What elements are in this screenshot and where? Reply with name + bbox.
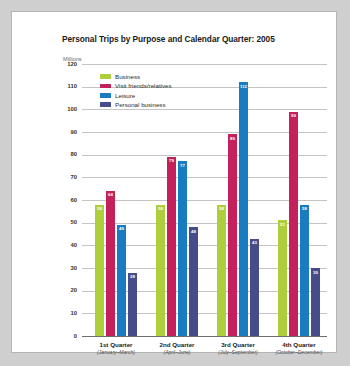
x-axis-category-label: 4th Quarter [262, 341, 336, 349]
y-axis-tick-label: 30 [51, 265, 77, 271]
bar-value-label: 99 [289, 113, 298, 118]
y-axis-tick-label: 110 [51, 83, 77, 89]
bar-value-label: 89 [228, 136, 237, 141]
y-axis-tick-label: 20 [51, 287, 77, 293]
bar: 79 [167, 157, 176, 336]
bar-group: 51995830 [278, 64, 320, 336]
bar-value-label: 58 [95, 206, 104, 211]
y-axis-tick-label: 120 [51, 61, 77, 67]
y-axis-tick-label: 90 [51, 129, 77, 135]
bar-value-label: 64 [106, 192, 115, 197]
legend-item-label: Business [115, 73, 140, 80]
bar-value-label: 58 [300, 206, 309, 211]
bar-value-label: 28 [128, 274, 137, 279]
screenshot-root: Personal Trips by Purpose and Calendar Q… [0, 0, 350, 366]
y-axis-tick-label: 0 [51, 333, 77, 339]
y-axis-tick-label: 80 [51, 151, 77, 157]
y-axis-tick-label: 50 [51, 219, 77, 225]
bar-group: 588911243 [217, 64, 259, 336]
bar: 58 [300, 205, 309, 336]
x-axis-category: 4th Quarter(October–December) [262, 341, 336, 356]
bar: 58 [217, 205, 226, 336]
bar: 30 [311, 268, 320, 336]
bar-value-label: 30 [311, 270, 320, 275]
legend-swatch-icon [100, 93, 111, 98]
legend-item-label: Leisure [115, 92, 135, 99]
bar: 43 [250, 239, 259, 336]
bar: 89 [228, 134, 237, 336]
bar: 58 [156, 205, 165, 336]
x-axis-category-sublabel: (October–December) [262, 349, 336, 356]
bar-value-label: 112 [239, 84, 248, 89]
bar-value-label: 58 [217, 206, 226, 211]
legend-swatch-icon [100, 102, 111, 107]
legend-item-label: Personal business [115, 101, 166, 108]
bar: 77 [178, 161, 187, 336]
bar-value-label: 49 [117, 226, 126, 231]
bar-value-label: 48 [189, 229, 198, 234]
bar: 28 [128, 273, 137, 336]
bar-value-label: 43 [250, 240, 259, 245]
legend-swatch-icon [100, 74, 111, 79]
bar-value-label: 77 [178, 163, 187, 168]
bar: 58 [95, 205, 104, 336]
y-axis-tick-label: 70 [51, 174, 77, 180]
bar-value-label: 51 [278, 222, 287, 227]
y-axis-tick-label: 60 [51, 197, 77, 203]
chart-card: Personal Trips by Purpose and Calendar Q… [11, 11, 337, 353]
legend-item: Visit friends/relatives [100, 81, 172, 90]
bar: 48 [189, 227, 198, 336]
legend-item-label: Visit friends/relatives [115, 82, 172, 89]
y-axis-tick-label: 40 [51, 242, 77, 248]
bar-value-label: 79 [167, 158, 176, 163]
legend-item: Business [100, 72, 172, 81]
bar: 99 [289, 112, 298, 336]
y-axis-tick-label: 10 [51, 310, 77, 316]
bar: 112 [239, 82, 248, 336]
chart-legend: BusinessVisit friends/relativesLeisurePe… [100, 72, 172, 110]
y-axis-tick-label: 100 [51, 106, 77, 112]
bar: 51 [278, 220, 287, 336]
bar-value-label: 58 [156, 206, 165, 211]
bar: 64 [106, 191, 115, 336]
legend-item: Leisure [100, 91, 172, 100]
page-title: Personal Trips by Purpose and Calendar Q… [62, 34, 332, 44]
legend-item: Personal business [100, 100, 172, 109]
legend-swatch-icon [100, 84, 111, 89]
bar: 49 [117, 225, 126, 336]
axis-line-zero [82, 336, 327, 337]
